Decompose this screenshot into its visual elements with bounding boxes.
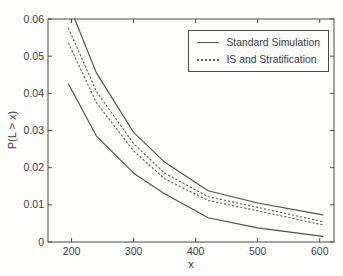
legend: Standard Simulation IS and Stratificatio… [188,30,329,72]
x-tick-label: 300 [125,245,143,257]
y-tick-label: 0.03 [24,124,45,136]
legend-entry-standard-simulation: Standard Simulation [197,36,320,49]
legend-entry-is-stratification: IS and Stratification [197,53,320,66]
x-tick-label: 500 [249,245,267,257]
y-tick-label: 0 [38,236,44,248]
x-tick-label: 400 [187,245,205,257]
y-tick-label: 0.04 [24,87,45,99]
x-tick-label: 600 [311,245,329,257]
y-tick-label: 0.05 [24,50,45,62]
legend-label-is-stratification: IS and Stratification [226,53,316,66]
legend-label-standard-simulation: Standard Simulation [226,36,320,49]
chart-figure: 20030040050060000.010.020.030.040.050.06… [0,0,343,276]
y-tick-label: 0.01 [24,198,45,210]
y-tick-label: 0.02 [24,161,45,173]
dotted-line-sample [197,59,219,61]
x-axis-label: x [48,258,334,270]
x-tick-label: 200 [63,245,81,257]
y-axis-label: P(L > x) [6,70,20,190]
y-tick-label: 0.06 [24,13,45,25]
solid-line-sample [197,42,219,43]
